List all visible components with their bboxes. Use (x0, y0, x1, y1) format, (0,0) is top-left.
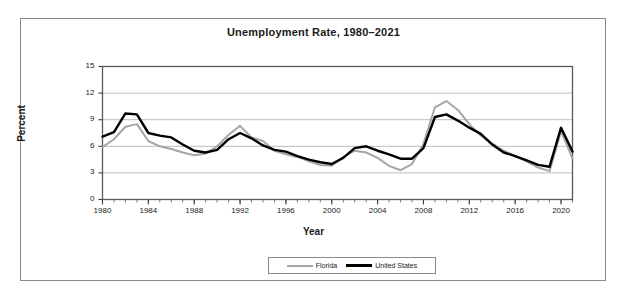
y-tick-label: 9 (73, 114, 95, 123)
x-tick-label: 2000 (315, 206, 349, 215)
legend-label-united-states: United States (375, 262, 417, 269)
y-tick-label: 15 (73, 61, 95, 70)
x-tick-label: 2012 (452, 206, 486, 215)
chart-legend: Florida United States (268, 257, 436, 274)
y-tick-label: 6 (73, 141, 95, 150)
x-tick-label: 1984 (131, 206, 165, 215)
legend-item-united-states: United States (346, 262, 417, 269)
x-tick-label: 1980 (86, 206, 120, 215)
axis-major-ticks (99, 67, 562, 205)
data-series-lines (103, 101, 573, 171)
legend-item-florida: Florida (287, 262, 337, 269)
legend-swatch-florida-icon (287, 265, 313, 267)
gridlines (103, 67, 573, 173)
x-tick-label: 1992 (223, 206, 257, 215)
x-tick-label: 2016 (498, 206, 532, 215)
legend-label-florida: Florida (316, 262, 337, 269)
y-tick-label: 0 (73, 194, 95, 203)
y-tick-label: 12 (73, 88, 95, 97)
x-tick-label: 1996 (269, 206, 303, 215)
x-tick-label: 2020 (544, 206, 578, 215)
chart-figure: Unemployment Rate, 1980–2021 Percent Yea… (0, 0, 627, 299)
y-tick-label: 3 (73, 167, 95, 176)
x-tick-label: 2004 (361, 206, 395, 215)
x-tick-label: 1988 (177, 206, 211, 215)
legend-swatch-united-states-icon (346, 264, 372, 267)
plot-border (103, 67, 573, 200)
x-tick-label: 2008 (406, 206, 440, 215)
series-line-united-states (103, 113, 573, 166)
